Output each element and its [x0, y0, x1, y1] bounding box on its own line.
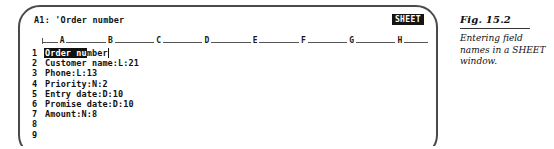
figure-number-label: Fig. 15.2 — [460, 14, 550, 25]
selected-cell-a1[interactable]: Order number — [44, 48, 109, 58]
column-header-f[interactable]: F — [299, 35, 308, 46]
row-number-2[interactable]: 2 — [32, 58, 41, 68]
grid-row[interactable]: 3Phone:L:13 — [32, 68, 428, 78]
cell-a3[interactable]: Phone:L:13 — [45, 68, 97, 78]
column-header-e[interactable]: E — [251, 35, 260, 46]
row-number-6[interactable]: 6 — [32, 99, 41, 109]
cell-a6[interactable]: Promise date:D:10 — [45, 99, 134, 109]
grid-row[interactable]: 1Order number — [32, 48, 428, 58]
cell-a5[interactable]: Entry date:D:10 — [45, 89, 123, 99]
row-number-4[interactable]: 4 — [32, 79, 41, 89]
column-header-c[interactable]: C — [154, 35, 163, 46]
grid-row[interactable]: 6Promise date:D:10 — [32, 99, 428, 109]
grid-row[interactable]: 2Customer name:L:21 — [32, 58, 428, 68]
column-header-rule — [42, 42, 428, 43]
sheet-window: A1: 'Order number SHEET ABCDEFGH 1Order … — [28, 10, 432, 149]
row-number-7[interactable]: 7 — [32, 109, 41, 119]
grid-row[interactable]: 4Priority:N:2 — [32, 79, 428, 89]
cell-a7[interactable]: Amount:N:8 — [45, 109, 97, 119]
figure-caption: Fig. 15.2 Entering field names in a SHEE… — [460, 14, 550, 68]
figure-rule — [460, 28, 530, 29]
cell-cursor-highlight: Order nu — [45, 48, 87, 58]
row-number-3[interactable]: 3 — [32, 68, 41, 78]
column-header-g[interactable]: G — [347, 35, 356, 46]
grid-row[interactable]: 9 — [32, 130, 428, 140]
cell-a2[interactable]: Customer name:L:21 — [45, 58, 139, 68]
row-number-5[interactable]: 5 — [32, 89, 41, 99]
grid-row[interactable]: 5Entry date:D:10 — [32, 89, 428, 99]
column-header-h[interactable]: H — [395, 35, 404, 46]
mode-badge-sheet: SHEET — [392, 14, 424, 25]
column-header-d[interactable]: D — [202, 35, 211, 46]
row-number-8[interactable]: 8 — [32, 119, 41, 129]
column-header-a[interactable]: A — [58, 35, 67, 46]
row-number-9[interactable]: 9 — [32, 130, 41, 140]
grid-rows: 1Order number2Customer name:L:213Phone:L… — [32, 48, 428, 140]
grid-row[interactable]: 8 — [32, 119, 428, 129]
column-header-left-tick — [42, 38, 43, 44]
screenshot-page: A1: 'Order number SHEET ABCDEFGH 1Order … — [0, 0, 554, 149]
grid-row[interactable]: 7Amount:N:8 — [32, 109, 428, 119]
spreadsheet-grid[interactable]: ABCDEFGH 1Order number2Customer name:L:2… — [32, 35, 428, 147]
row-number-1[interactable]: 1 — [32, 48, 41, 58]
cell-text-tail: mber — [87, 48, 108, 58]
cell-a4[interactable]: Priority:N:2 — [45, 79, 108, 89]
cell-reference-status-line: A1: 'Order number — [34, 15, 124, 25]
column-header-b[interactable]: B — [106, 35, 115, 46]
column-header-row: ABCDEFGH — [42, 35, 428, 47]
figure-caption-text: Entering field names in a SHEET window. — [460, 33, 550, 68]
